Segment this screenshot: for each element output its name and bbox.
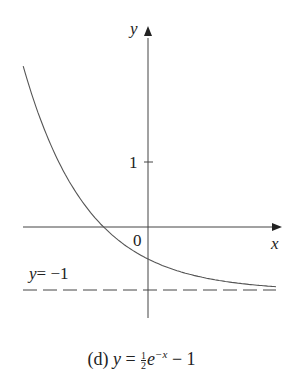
asymptote-label: y= −1 xyxy=(29,265,68,282)
caption-e: e xyxy=(147,349,155,369)
y-axis-label: y xyxy=(130,20,138,37)
caption-prefix: (d) xyxy=(87,349,113,369)
x-axis-arrow-icon xyxy=(272,223,282,231)
caption-eq: = xyxy=(121,349,140,369)
figure-caption: (d) y = 12e−x − 1 xyxy=(0,348,283,370)
asymptote-label-y: y xyxy=(29,264,37,283)
tick-label-1: 1 xyxy=(129,154,138,171)
caption-y: y xyxy=(113,349,121,369)
function-curve xyxy=(23,66,276,287)
y-axis-arrow-icon xyxy=(144,26,152,36)
origin-label: 0 xyxy=(133,232,142,249)
graph-canvas xyxy=(0,0,283,372)
asymptote-label-value: = −1 xyxy=(37,264,69,283)
caption-fraction: 12 xyxy=(141,351,146,370)
x-axis-label: x xyxy=(271,235,279,252)
caption-exp: −x xyxy=(155,348,167,360)
frac-den: 2 xyxy=(141,361,146,370)
caption-tail: − 1 xyxy=(167,349,195,369)
